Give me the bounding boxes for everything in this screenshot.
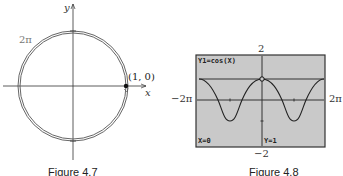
- caption-figure-4-8: Figure 4.8: [249, 166, 299, 176]
- xmin-label: −2π: [171, 93, 192, 104]
- xmax-label: 2π: [329, 93, 342, 104]
- point-label: (1, 0): [128, 71, 155, 82]
- ymin-label: −2: [254, 148, 269, 159]
- caption-figure-4-7: Figure 4.7: [48, 166, 98, 176]
- x-axis-label: x: [145, 87, 151, 98]
- cursor-y-readout: Y=1: [264, 137, 277, 145]
- figure-4-8: [196, 55, 325, 147]
- figures-canvas: [0, 0, 343, 176]
- point-1-0: [124, 84, 128, 88]
- screen-function-label: Y1=cos(X): [198, 57, 236, 65]
- cursor-x-readout: X=0: [198, 137, 211, 145]
- trace-cursor: [260, 77, 264, 81]
- y-axis-label: y: [64, 2, 70, 13]
- arc-length-label: 2π: [19, 34, 32, 45]
- figure-4-7: [3, 4, 146, 160]
- ymax-label: 2: [258, 43, 264, 54]
